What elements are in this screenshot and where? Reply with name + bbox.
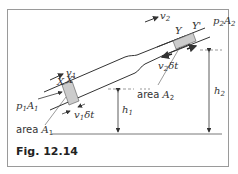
area-a1-leader <box>45 97 66 125</box>
y-prime-label: Y' <box>192 20 201 31</box>
bernoulli-pipe-diagram: v1 v2 X X' Y Y' p1A1 p2A2 area A1 area A… <box>0 0 238 174</box>
p2a2-label: p2A2 <box>213 15 236 28</box>
v2-label: v2 <box>160 10 171 23</box>
x-label: X <box>56 76 65 87</box>
area-a2-label: area A2 <box>137 89 174 102</box>
figure-caption: Fig. 12.14 <box>16 145 78 158</box>
v2dt-label: v2δt <box>158 60 179 73</box>
y-label: Y <box>175 25 183 36</box>
v2-arrow <box>145 17 158 22</box>
v1dt-arrow <box>62 111 70 114</box>
h1-label: h1 <box>122 104 133 117</box>
area-a1-label: area A1 <box>16 124 53 137</box>
p1a1-label: p1A1 <box>16 100 39 113</box>
v2dt-arrow-2 <box>187 46 196 49</box>
v1dt-label: v1δt <box>74 109 95 122</box>
v1dt-arrow-2 <box>78 104 85 107</box>
h2-label: h2 <box>214 85 225 98</box>
x-prime-label: X' <box>65 74 76 85</box>
p1a1-arrow <box>38 92 62 99</box>
